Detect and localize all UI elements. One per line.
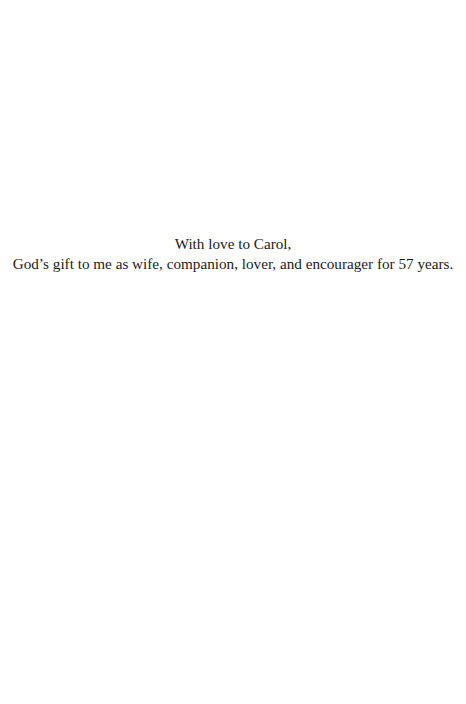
dedication-text: God’s gift to me as wife, companion, lov… [0,254,466,274]
dedication-block: With love to Carol, God’s gift to me as … [0,234,466,274]
dedication-salutation: With love to Carol, [0,234,466,254]
